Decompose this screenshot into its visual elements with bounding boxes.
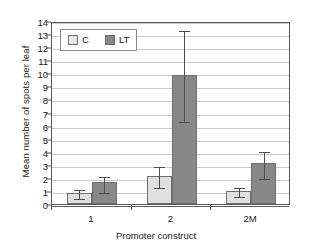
x-axis-title: Promoter construct [0, 230, 312, 241]
y-axis-tick-label: 1 [8, 186, 48, 197]
error-bar [159, 167, 160, 187]
y-axis-tick-label: 14 [8, 17, 48, 28]
error-bar [264, 152, 265, 179]
x-axis-tick-mark [51, 205, 52, 210]
y-axis-tick-label: 9 [8, 82, 48, 93]
error-bar-cap [99, 177, 110, 178]
error-bar-cap [234, 197, 245, 198]
y-axis-tick-label: 11 [8, 56, 48, 67]
error-bar [104, 177, 105, 193]
error-bar-cap [259, 152, 270, 153]
y-axis-tick-label: 0 [8, 200, 48, 211]
y-axis-tick-label: 7 [8, 108, 48, 119]
legend-entry-lt: LT [105, 35, 129, 45]
error-bar-cap [154, 188, 165, 189]
error-bar-cap [99, 193, 110, 194]
y-axis-tick-label: 4 [8, 147, 48, 158]
y-axis-tick-label: 10 [8, 69, 48, 80]
error-bar-cap [179, 31, 190, 32]
bar-chart: Mean number of spots per leaf 0123456789… [0, 0, 312, 248]
legend-swatch-c-icon [68, 35, 78, 45]
y-axis-tick-label: 8 [8, 95, 48, 106]
x-axis-tick-label: 1 [61, 213, 121, 224]
y-axis-tick-label: 12 [8, 43, 48, 54]
error-bar-cap [154, 167, 165, 168]
legend-swatch-lt-icon [105, 35, 115, 45]
x-axis-tick-mark [131, 205, 132, 210]
gridline [52, 206, 289, 207]
x-axis-tick-label: 2M [220, 213, 280, 224]
error-bar-cap [74, 199, 85, 200]
error-bar-cap [74, 190, 85, 191]
y-axis-tick-label: 6 [8, 121, 48, 132]
y-axis-tick-label: 2 [8, 173, 48, 184]
x-axis-tick-mark [210, 205, 211, 210]
error-bar-cap [179, 122, 190, 123]
legend-label-lt: LT [119, 35, 129, 45]
error-bar-cap [259, 179, 270, 180]
error-bar [184, 31, 185, 122]
legend-label-c: C [82, 35, 89, 45]
x-axis-tick-label: 2 [141, 213, 201, 224]
y-axis-tick-label: 3 [8, 160, 48, 171]
y-axis-tick-label: 13 [8, 30, 48, 41]
error-bar [79, 190, 80, 198]
legend-entry-c: C [68, 35, 89, 45]
legend: C LT [60, 29, 137, 51]
error-bar-cap [234, 188, 245, 189]
error-bar [239, 188, 240, 196]
y-axis-tick-label: 5 [8, 134, 48, 145]
